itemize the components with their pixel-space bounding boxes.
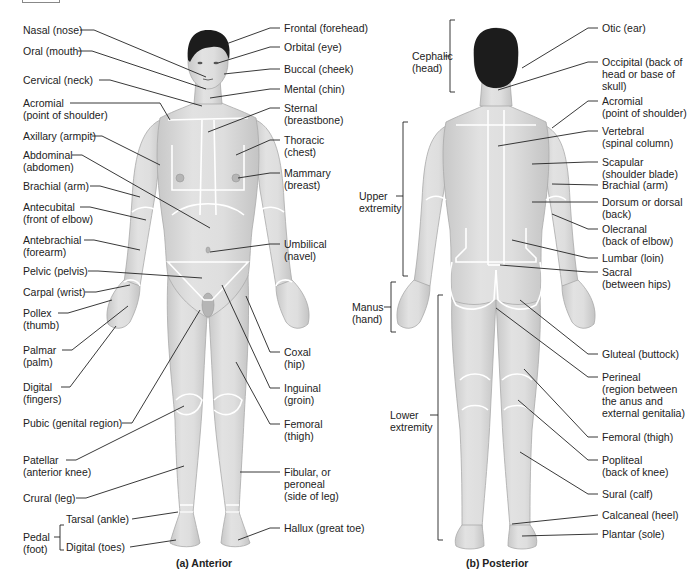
label-femoral-anterior: Femoral(thigh) (284, 418, 323, 442)
label-manus: Manus(hand) (352, 301, 384, 325)
label-line: Femoral (284, 418, 323, 430)
label-pelvic: Pelvic (pelvis) (23, 265, 88, 277)
label-umbilical: Umbilical(navel) (284, 238, 327, 262)
label-scapular: Scapular(shoulder blade) (602, 156, 678, 180)
label-thoracic: Thoracic(chest) (284, 134, 324, 158)
label-mental: Mental (chin) (284, 83, 345, 95)
label-digital-fingers: Digital(fingers) (23, 381, 62, 405)
label-line: Coxal (284, 346, 311, 358)
label-line: (back of elbow) (602, 235, 673, 247)
label-line: (hip) (284, 358, 305, 370)
label-line: (head) (412, 62, 442, 74)
label-inguinal: Inguinal(groin) (284, 382, 321, 406)
label-line: (point of shoulder) (23, 109, 108, 121)
label-cephalic: Cephalic(head) (412, 50, 453, 74)
label-line: Manus (352, 301, 384, 313)
label-frontal: Frontal (forehead) (284, 22, 368, 34)
label-vertebral: Vertebral(spinal column) (602, 125, 673, 149)
label-line: Vertebral (602, 125, 644, 137)
label-line: (abdomen) (23, 161, 74, 173)
label-femoral-posterior: Femoral (thigh) (602, 431, 673, 443)
label-line: Lower (390, 409, 419, 421)
label-line: Inguinal (284, 382, 321, 394)
figure-artwork (0, 0, 699, 581)
label-sternal: Sternal(breastbone) (284, 102, 344, 126)
label-tarsal: Tarsal (ankle) (66, 513, 129, 525)
label-line: (forearm) (23, 246, 66, 258)
label-pubic: Pubic (genital region) (23, 417, 122, 429)
label-line: Sacral (602, 266, 632, 278)
label-brachial-anterior: Brachial (arm) (23, 180, 89, 192)
posterior-figure (397, 28, 595, 549)
label-pedal: Pedal(foot) (23, 531, 50, 555)
label-pollex: Pollex(thumb) (23, 307, 59, 331)
label-acromial-anterior: Acromial(point of shoulder) (23, 97, 108, 121)
label-line: (point of shoulder) (602, 107, 687, 119)
label-buccal: Buccal (cheek) (284, 63, 353, 75)
label-line: (chest) (284, 146, 316, 158)
label-gluteal: Gluteal (buttock) (602, 348, 679, 360)
label-line: Abdominal (23, 149, 73, 161)
label-line: Perineal (602, 371, 641, 383)
label-line: Patellar (23, 454, 59, 466)
label-line: (front of elbow) (23, 213, 93, 225)
label-line: (between hips) (602, 278, 671, 290)
label-line: Antecubital (23, 201, 75, 213)
label-antebrachial: Antebrachial(forearm) (23, 234, 81, 258)
label-digital-toes: Digital (toes) (66, 541, 125, 553)
label-line: Cephalic (412, 50, 453, 62)
posterior-hair (474, 28, 519, 88)
label-line: (back of knee) (602, 466, 669, 478)
body-regions-diagram: Nasal (nose) Oral (mouth) Cervical (neck… (0, 0, 699, 581)
caption-posterior: (b) Posterior (466, 557, 528, 569)
label-patellar: Patellar(anterior knee) (23, 454, 91, 478)
label-orbital: Orbital (eye) (284, 41, 342, 53)
label-sacral: Sacral(between hips) (602, 266, 671, 290)
label-line: Upper (359, 190, 388, 202)
label-line: (region between (602, 383, 677, 395)
anterior-figure (107, 35, 309, 547)
label-line: skull) (602, 80, 627, 92)
label-line: (groin) (284, 394, 314, 406)
label-line: (palm) (23, 356, 53, 368)
label-cervical: Cervical (neck) (23, 74, 93, 86)
label-line: external genitalia) (602, 407, 685, 419)
label-upper-extremity: Upperextremity (359, 190, 402, 214)
label-abdominal: Abdominal(abdomen) (23, 149, 74, 173)
label-line: Pollex (23, 307, 52, 319)
label-lower-extremity: Lowerextremity (390, 409, 433, 433)
label-line: peroneal (284, 478, 325, 490)
label-lumbar: Lumbar (loin) (602, 252, 664, 264)
label-line: (breast) (284, 179, 320, 191)
label-crural: Crural (leg) (23, 492, 76, 504)
label-brachial-posterior: Brachial (arm) (602, 179, 668, 191)
label-line: (fingers) (23, 393, 62, 405)
label-line: Palmar (23, 344, 56, 356)
label-oral: Oral (mouth) (23, 45, 82, 57)
label-line: Mammary (284, 167, 331, 179)
label-antecubital: Antecubital(front of elbow) (23, 201, 93, 225)
label-sural: Sural (calf) (602, 488, 653, 500)
label-hallux: Hallux (great toe) (284, 522, 365, 534)
label-olecranal: Olecranal(back of elbow) (602, 223, 673, 247)
label-carpal: Carpal (wrist) (23, 286, 85, 298)
label-line: (spinal column) (602, 137, 673, 149)
label-line: Umbilical (284, 238, 327, 250)
label-line: (back) (602, 208, 631, 220)
label-coxal: Coxal(hip) (284, 346, 311, 370)
label-line: Acromial (23, 97, 64, 109)
label-perineal: Perineal(region betweenthe anus andexter… (602, 371, 685, 419)
label-line: Occipital (back of (602, 56, 683, 68)
label-line: Popliteal (602, 454, 642, 466)
label-mammary: Mammary(breast) (284, 167, 331, 191)
label-line: extremity (390, 421, 433, 433)
label-fibular: Fibular, orperoneal(side of leg) (284, 466, 339, 502)
label-line: Acromial (602, 95, 643, 107)
label-line: Fibular, or (284, 466, 331, 478)
label-line: (breastbone) (284, 114, 344, 126)
label-line: Thoracic (284, 134, 324, 146)
label-line: Scapular (602, 156, 643, 168)
label-occipital: Occipital (back ofhead or base ofskull) (602, 56, 683, 92)
label-palmar: Palmar(palm) (23, 344, 56, 368)
label-line: (thigh) (284, 430, 314, 442)
